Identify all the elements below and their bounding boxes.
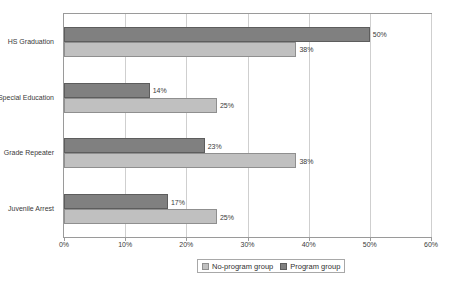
bar-track: 38% [64,153,431,168]
bar-no-program-group [64,98,217,113]
bar-no-program-group [64,42,296,57]
plot-area: 50%38%14%25%23%38%17%25% [63,13,432,238]
x-tick-label: 20% [179,241,193,248]
category-axis-labels: HS GraduationSpecial EducationGrade Repe… [0,13,58,238]
bar-chart: 50%38%14%25%23%38%17%25% HS GraduationSp… [0,0,464,288]
category-group: 23%38% [64,126,431,182]
bar-value-label: 17% [168,198,185,205]
x-tick-label: 10% [118,241,132,248]
bar-value-label: 23% [205,142,222,149]
bar-value-label: 50% [370,31,387,38]
bar-program-group [64,83,150,98]
category-label: Grade Repeater [0,149,54,156]
x-tick-mark [64,238,65,241]
x-tick-label: 30% [240,241,254,248]
x-tick-label: 40% [302,241,316,248]
x-tick-mark [370,238,371,241]
bar-program-group [64,27,370,42]
bar-track: 14% [64,83,431,98]
value-axis-labels: 0%10%20%30%40%50%60% [63,241,432,255]
legend-label: Program group [290,262,340,271]
legend-label: No-program group [212,262,273,271]
bar-value-label: 14% [150,87,167,94]
bar-value-label: 25% [217,213,234,220]
bar-track: 38% [64,42,431,57]
bar-track: 17% [64,194,431,209]
bar-no-program-group [64,209,217,224]
x-tick-mark [431,238,432,241]
bar-value-label: 38% [296,157,313,164]
bar-program-group [64,194,168,209]
legend-swatch-icon [280,263,287,270]
bar-value-label: 25% [217,102,234,109]
x-tick-label: 50% [363,241,377,248]
category-group: 14%25% [64,70,431,126]
x-tick-mark [248,238,249,241]
category-label: Special Education [0,93,54,100]
bar-track: 23% [64,138,431,153]
x-tick-mark [309,238,310,241]
category-label: Juvenile Arrest [0,205,54,212]
bar-program-group [64,138,205,153]
bar-track: 50% [64,27,431,42]
category-group: 17%25% [64,181,431,237]
bar-value-label: 38% [296,46,313,53]
bar-no-program-group [64,153,296,168]
x-tick-mark [186,238,187,241]
category-group: 50%38% [64,14,431,70]
category-label: HS Graduation [0,37,54,44]
chart-legend: No-program groupProgram group [197,259,345,273]
x-tick-mark [125,238,126,241]
x-tick-label: 60% [424,241,438,248]
x-tick-label: 0% [59,241,69,248]
legend-item[interactable]: No-program group [202,262,273,271]
bar-track: 25% [64,209,431,224]
gridline [431,14,432,237]
legend-swatch-icon [202,263,209,270]
bar-track: 25% [64,98,431,113]
legend-item[interactable]: Program group [280,262,340,271]
